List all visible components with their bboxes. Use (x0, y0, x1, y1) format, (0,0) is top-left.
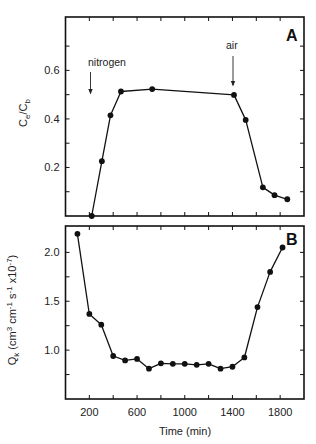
data-point-marker (170, 361, 176, 367)
data-line (92, 89, 288, 216)
panel-a-x-ticks (89, 17, 280, 216)
data-point-marker (241, 355, 247, 361)
x-axis-title: Time (min) (159, 425, 211, 437)
x-tick-label: 1000 (173, 406, 197, 418)
nitrogen-annotation: nitrogen (88, 56, 126, 68)
panel-a-frame (66, 17, 305, 216)
air-annotation: air (226, 39, 238, 51)
data-point-marker (231, 92, 237, 98)
data-point-marker (230, 364, 236, 370)
data-line (77, 234, 282, 369)
data-point-marker (89, 213, 95, 219)
data-point-marker (118, 89, 124, 95)
panel-a-series (89, 86, 290, 219)
data-point-marker (280, 245, 286, 251)
data-point-marker (272, 192, 278, 198)
y-tick-label: 0.4 (44, 113, 59, 125)
y-tick-label: 1.0 (44, 344, 59, 356)
data-point-marker (110, 353, 116, 359)
panel-a: 0.20.40.6 A nitrogen air Ce/Cb (17, 17, 304, 219)
panel-b-frame (66, 226, 305, 399)
data-point-marker (182, 361, 188, 367)
data-point-marker (158, 360, 164, 366)
data-point-marker (146, 366, 152, 372)
data-point-marker (284, 196, 290, 202)
panel-a-y-axis-title: Ce/Cb (17, 99, 32, 127)
figure: 0.20.40.6 A nitrogen air Ce/Cb 200600100… (0, 0, 316, 444)
data-point-marker (260, 184, 266, 190)
y-tick-label: 1.5 (44, 295, 59, 307)
chart-canvas: 0.20.40.6 A nitrogen air Ce/Cb 200600100… (0, 0, 316, 444)
air-arrow-icon (231, 56, 235, 87)
panel-b-y-axis-title: Qk (cm3 cm-1 s-1 x10-7) (5, 255, 21, 366)
data-point-marker (243, 117, 249, 123)
panel-b: 200600100014001800 1.01.52.0 B Time (min… (5, 226, 304, 437)
panel-b-letter: B (286, 231, 298, 248)
panel-b-series (75, 231, 286, 372)
data-point-marker (255, 304, 261, 310)
panel-a-letter: A (286, 27, 298, 44)
panel-b-y-ticks: 1.01.52.0 (44, 246, 304, 374)
data-point-marker (75, 231, 81, 237)
data-point-marker (122, 357, 128, 363)
data-point-marker (194, 362, 200, 368)
data-point-marker (206, 361, 212, 367)
x-tick-label: 200 (80, 406, 98, 418)
data-point-marker (267, 269, 273, 275)
y-tick-label: 0.6 (44, 64, 59, 76)
data-point-marker (99, 158, 105, 164)
data-point-marker (149, 86, 155, 92)
x-tick-label: 600 (128, 406, 146, 418)
panel-b-x-ticks: 200600100014001800 (80, 226, 292, 418)
data-point-marker (98, 322, 104, 328)
nitrogen-arrow-icon (88, 72, 92, 95)
y-tick-label: 0.2 (44, 161, 59, 173)
data-point-marker (134, 356, 140, 362)
data-point-marker (218, 366, 224, 372)
data-point-marker (86, 311, 92, 317)
x-tick-label: 1400 (220, 406, 244, 418)
x-tick-label: 1800 (268, 406, 292, 418)
data-point-marker (108, 112, 114, 118)
y-tick-label: 2.0 (44, 246, 59, 258)
panel-a-y-ticks: 0.20.40.6 (44, 46, 304, 192)
